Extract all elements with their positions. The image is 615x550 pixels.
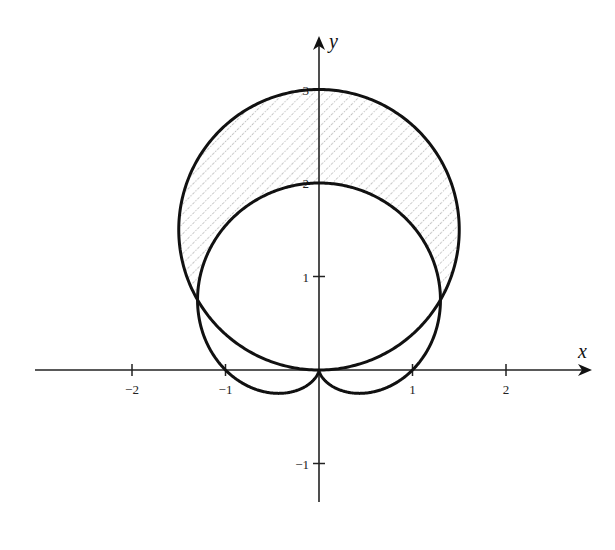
plot-canvas: −2−112 x −1123 y <box>0 0 615 550</box>
y-axis-label: y <box>327 30 338 53</box>
polar-region-diagram: −2−112 x −1123 y <box>0 0 615 550</box>
x-axis-label: x <box>577 340 587 362</box>
y-tick-label: −1 <box>295 457 309 472</box>
x-tick-label: −2 <box>125 382 139 397</box>
x-tick-label: 1 <box>409 382 416 397</box>
x-tick-label: −1 <box>219 382 233 397</box>
y-tick-label: 1 <box>303 270 310 285</box>
x-tick-label: 2 <box>503 382 510 397</box>
